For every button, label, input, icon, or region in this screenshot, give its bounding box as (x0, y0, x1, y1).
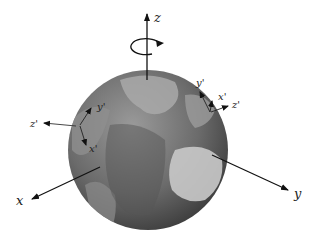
axis-z-label: z (153, 10, 161, 25)
local-right-y-label: y' (195, 77, 204, 88)
local-right-x-label: x' (218, 91, 226, 102)
earth-globe (68, 70, 230, 240)
axis-y-label: y (293, 186, 302, 201)
local-left-x-label: x' (89, 143, 97, 154)
axis-x-label: x (16, 193, 24, 208)
rotation-arrow-icon (156, 40, 164, 47)
earth-coordinate-diagram: z x y z' y' x' y' x' z' (0, 0, 317, 248)
local-left-y-label: y' (96, 101, 105, 112)
local-left-z-label: z' (29, 118, 38, 129)
local-right-z-label: z' (231, 99, 240, 110)
